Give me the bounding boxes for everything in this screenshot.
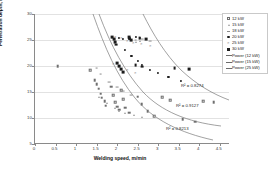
data-point: [144, 38, 147, 41]
data-point: [173, 67, 176, 70]
data-point: [115, 43, 118, 46]
data-point: [141, 116, 143, 118]
data-point: [202, 100, 205, 103]
x-tick-label: 3.5: [168, 147, 188, 151]
data-point: ✕: [140, 43, 143, 46]
data-point: ✕: [134, 71, 137, 74]
data-point: [124, 112, 126, 114]
data-point: [112, 94, 115, 97]
data-point: [114, 107, 116, 109]
data-point: [93, 79, 96, 82]
data-point: [128, 112, 131, 115]
x-axis-title: Welding speed, m/min: [0, 156, 240, 161]
data-point: [95, 68, 98, 69]
r-squared-label: R² = 0.9127: [176, 104, 199, 108]
x-tick-label: 2.5: [127, 147, 147, 151]
plot-area: ✕✕✕✕✕✕✕✕✕✕: [34, 14, 229, 144]
y-tick-label: 15: [14, 90, 32, 94]
data-point: ✕: [132, 41, 135, 44]
data-point: [194, 120, 197, 123]
data-point: [130, 95, 133, 96]
x-tick-label: 0: [24, 147, 44, 151]
data-point: [99, 92, 102, 95]
y-axis-title: Penetration depth, mm: [0, 0, 3, 46]
data-point: [89, 69, 92, 72]
data-point: [140, 65, 143, 68]
data-point: [95, 83, 98, 86]
data-point: [188, 68, 191, 71]
y-tick-label: 5: [14, 142, 32, 146]
data-point: [122, 91, 125, 92]
data-point: [136, 95, 139, 98]
y-tick-label: 20: [14, 64, 32, 68]
data-point: [122, 98, 125, 101]
data-point: [56, 65, 59, 68]
data-point: ✕: [120, 37, 123, 40]
data-point: [147, 110, 150, 113]
x-tick-label: 0.5: [45, 147, 65, 151]
data-point: ✕: [126, 40, 129, 43]
data-point: [98, 96, 100, 98]
legend-item-label: Power (25 kW): [232, 65, 260, 71]
data-point: [181, 118, 184, 121]
data-point: [124, 106, 127, 109]
r-squared-label: R² = 0.8213: [166, 127, 189, 131]
legend-item[interactable]: Power (25 kW): [225, 65, 266, 71]
data-point: [114, 101, 117, 104]
data-point: [161, 96, 164, 99]
x-tick-label: 2: [106, 147, 126, 151]
data-point: [149, 40, 152, 41]
data-point: ✕: [126, 69, 129, 72]
x-tick-label: 1.5: [86, 147, 106, 151]
data-point: [130, 39, 133, 42]
data-point: [107, 81, 110, 82]
x-tick-label: 3: [147, 147, 167, 151]
data-point: [104, 104, 107, 107]
trend-curves: [35, 14, 230, 144]
data-point: [138, 37, 141, 40]
chart-figure: Penetration depth, mm Welding speed, m/m…: [0, 0, 268, 180]
data-point: [169, 99, 172, 102]
y-tick-label: 25: [14, 38, 32, 42]
data-point: [118, 110, 120, 112]
data-point: [100, 96, 103, 99]
data-point: [133, 114, 135, 116]
data-point: [99, 73, 102, 74]
y-tick-label: 10: [14, 116, 32, 120]
line-icon: [225, 65, 232, 71]
data-point: [212, 101, 215, 104]
data-point: [140, 103, 143, 106]
r-squared-label: R² = 0.8274: [181, 84, 204, 88]
x-tick-label: 4: [188, 147, 208, 151]
data-point: [122, 71, 125, 74]
x-tick-label: 4.5: [209, 147, 229, 151]
data-point: [134, 64, 137, 67]
x-tick-label: 1: [65, 147, 85, 151]
data-point: ✕: [149, 45, 152, 48]
data-point: [97, 88, 100, 91]
data-point: [153, 115, 156, 118]
data-point: [106, 102, 108, 104]
data-point: ✕: [112, 63, 115, 66]
data-point: [110, 86, 113, 89]
legend: 12 kW15 kW18 kW20 kW✕25 kW30 kWPower (12…: [222, 13, 268, 74]
data-point: [116, 87, 119, 88]
y-tick-label: 30: [14, 12, 32, 16]
